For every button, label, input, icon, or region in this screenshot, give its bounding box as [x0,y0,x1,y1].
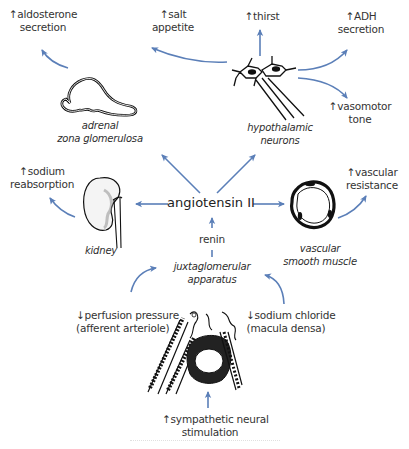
arrow-sodium-chloride [265,275,284,304]
arrow-salt-appetite [152,48,227,62]
sympathetic-line1: ↑sympathetic neural [162,413,258,426]
structure-hypothalamic-label: hypothalamic neurons [240,121,320,147]
effect-adh-line2: secretion [333,23,389,36]
effect-aldosterone-line1: ↑aldosterone [4,8,82,21]
structure-jga-label: juxtaglomerular apparatus [162,260,262,286]
sympathetic-line2: stimulation [162,426,258,439]
structure-adrenal-label: adrenal zona glomerulosa [55,119,145,145]
adrenal-line1: adrenal [55,119,145,132]
effect-thirst: ↑thirst [238,10,286,23]
arrow-vasomotor [298,78,347,98]
faint-caption-remnant [130,440,280,444]
vascular-line2: smooth muscle [278,255,362,268]
effect-adh-secretion: ↑ADH secretion [333,10,389,36]
arrow-sodium-reabsorption [50,198,75,217]
stimulus-perfusion-pressure: ↓perfusion pressure (afferent arteriole) [76,309,168,335]
effect-aldosterone-line2: secretion [4,21,82,34]
arrow-vascular-resistance [338,196,366,218]
diagram-canvas [0,0,409,449]
effect-salt-line2: appetite [148,21,198,34]
arrow-adh [298,50,347,70]
stimulus-sympathetic: ↑sympathetic neural stimulation [162,413,258,439]
sodium-chloride-line2: (macula densa) [246,322,326,335]
renin-label: renin [192,233,232,246]
arrow-aldosterone [42,50,68,68]
effect-sodium-reabsorption: ↑sodium reabsorption [10,165,74,191]
effect-vascular-res-line2: resistance [340,179,404,192]
vascular-line1: vascular [278,242,362,255]
effect-vascular-res-line1: ↑vascular [340,166,404,179]
blood-vessel-icon [292,182,334,228]
perfusion-line2: (afferent arteriole) [76,322,168,335]
jga-line2: apparatus [162,273,262,286]
effect-vasomotor-tone: ↑vasomotor tone [325,100,395,126]
effect-vasomotor-line2: tone [325,113,395,126]
arrow-perfusion [131,268,156,292]
structure-kidney-label: kidney [76,244,126,257]
arrow-to-hypothalamic [217,155,255,193]
adrenal-line2: zona glomerulosa [55,132,145,145]
angiotensin-ii-text: angiotensin II [166,196,256,209]
angiotensin-ii-label: angiotensin II [166,196,256,209]
effect-salt-line1: ↑salt [148,8,198,21]
effect-aldosterone-secretion: ↑aldosterone secretion [4,8,82,34]
renin-text: renin [192,233,232,246]
effect-sodium-line2: reabsorption [10,178,74,191]
hypothalamic-line2: neurons [240,134,320,147]
neuron-icon [232,56,304,120]
jga-line1: juxtaglomerular [162,260,262,273]
effect-sodium-line1: ↑sodium [10,165,74,178]
effect-salt-appetite: ↑salt appetite [148,8,198,34]
sodium-chloride-line1: ↓sodium chloride [246,309,326,322]
effect-vascular-resistance: ↑vascular resistance [340,166,404,192]
arrow-to-adrenal [162,155,200,193]
kidney-line1: kidney [76,244,126,257]
hypothalamic-line1: hypothalamic [240,121,320,134]
adrenal-gland-icon [62,78,136,115]
effect-thirst-line1: ↑thirst [238,10,286,23]
kidney-icon [84,178,122,248]
structure-vascular-label: vascular smooth muscle [278,242,362,268]
perfusion-line1: ↓perfusion pressure [76,309,168,322]
effect-adh-line1: ↑ADH [333,10,389,23]
effect-vasomotor-line1: ↑vasomotor [325,100,395,113]
stimulus-sodium-chloride: ↓sodium chloride (macula densa) [246,309,326,335]
